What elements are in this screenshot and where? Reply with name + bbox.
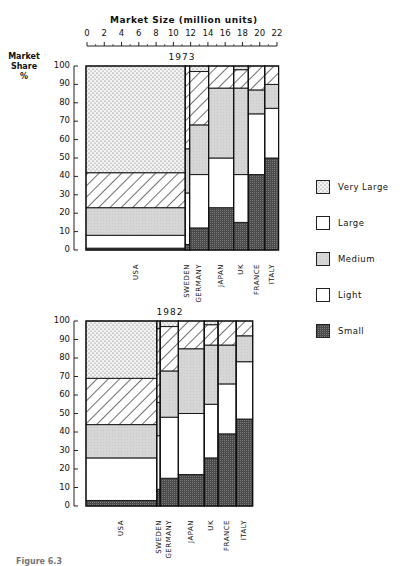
bar-segment-large xyxy=(86,378,157,424)
bar-segment-large xyxy=(185,66,189,149)
legend-label: Medium xyxy=(338,254,375,264)
bar-segment-small xyxy=(248,175,264,250)
y-tick-label: 0 xyxy=(44,244,70,254)
legend-item-large: Large xyxy=(316,216,389,230)
category-label: ITALY xyxy=(268,264,276,284)
y-tick-label: 30 xyxy=(44,445,70,455)
bar-segment-medium xyxy=(209,88,234,158)
x-tick-label: 18 xyxy=(237,28,248,38)
y-tick-label: 0 xyxy=(44,500,70,510)
bar-segment-medium xyxy=(248,90,264,114)
bar-segment-medium xyxy=(160,371,178,417)
chart-title-1973: 1973 xyxy=(169,52,196,62)
category-label: USA xyxy=(132,264,140,280)
y-tick-label: 30 xyxy=(44,189,70,199)
legend-item-light: Light xyxy=(316,288,389,302)
y-tick-label: 20 xyxy=(44,207,70,217)
category-label: ITALY xyxy=(240,520,248,540)
bar-segment-small xyxy=(86,500,157,506)
large-swatch-icon xyxy=(316,216,330,230)
y-tick-label: 50 xyxy=(44,152,70,162)
y-tick-label: 90 xyxy=(44,334,70,344)
y-axis-title-line3: % xyxy=(4,72,44,82)
bar-segment-very-large xyxy=(160,321,178,327)
x-tick-label: 12 xyxy=(185,28,196,38)
small-swatch-icon xyxy=(316,324,330,338)
bar-segment-medium xyxy=(218,345,236,384)
x-tick-label: 2 xyxy=(102,28,107,38)
bar-segment-small xyxy=(190,228,209,250)
category-label: UK xyxy=(207,520,215,531)
x-tick-label: 4 xyxy=(119,28,124,38)
bar-segment-small xyxy=(185,244,189,250)
bar-segment-large xyxy=(204,325,218,345)
bar-segment-light xyxy=(86,235,185,248)
bar-segment-medium xyxy=(265,84,279,108)
y-axis-title-line2: Share xyxy=(4,62,44,72)
y-tick-label: 90 xyxy=(44,78,70,88)
bar-segment-light xyxy=(185,193,189,245)
x-tick-label: 20 xyxy=(254,28,265,38)
bar-segment-large xyxy=(218,321,236,345)
x-tick-label: 22 xyxy=(272,28,283,38)
y-tick-label: 20 xyxy=(44,463,70,473)
bar-segment-large xyxy=(234,70,249,88)
bar-segment-small xyxy=(234,222,249,250)
bar-segment-light xyxy=(218,384,236,434)
category-label: JAPAN xyxy=(217,264,225,287)
bar-segment-small xyxy=(236,419,252,506)
legend-item-very-large: Very Large xyxy=(316,180,389,194)
bar-segment-small xyxy=(209,208,234,250)
y-tick-label: 40 xyxy=(44,170,70,180)
bar-segment-large xyxy=(265,66,279,84)
chart-1973 xyxy=(74,66,279,250)
bar-segment-small xyxy=(178,475,204,506)
bar-segment-light xyxy=(204,404,218,458)
bar-segment-large xyxy=(209,66,234,88)
category-label: UK xyxy=(237,264,245,275)
y-tick-label: 10 xyxy=(44,482,70,492)
bar-segment-light xyxy=(86,458,157,501)
bar-segment-light xyxy=(178,414,204,475)
y-axis-title: Market Share % xyxy=(4,52,44,82)
y-tick-label: 70 xyxy=(44,115,70,125)
legend-label: Large xyxy=(338,218,364,228)
bar-segment-medium xyxy=(204,345,218,404)
bar-segment-light xyxy=(265,108,279,158)
x-tick-label: 14 xyxy=(202,28,213,38)
bar-segment-large xyxy=(236,321,252,336)
bar-segment-small xyxy=(265,158,279,250)
light-swatch-icon xyxy=(316,288,330,302)
figure-caption: Figure 6.3 xyxy=(16,557,62,566)
category-label: SWEDEN xyxy=(155,520,163,554)
bar-segment-medium xyxy=(178,349,204,414)
legend-item-small: Small xyxy=(316,324,389,338)
y-tick-label: 10 xyxy=(44,226,70,236)
bar-segment-small xyxy=(218,434,236,506)
bar-segment-large xyxy=(160,327,178,371)
bar-segment-light xyxy=(160,417,178,478)
x-tick-label: 0 xyxy=(84,28,89,38)
bar-segment-very-large xyxy=(190,66,209,72)
bar-segment-medium xyxy=(86,208,185,236)
y-tick-label: 100 xyxy=(44,315,70,325)
bar-segment-small xyxy=(160,478,178,506)
bar-segment-medium xyxy=(185,149,189,193)
category-label: USA xyxy=(117,520,125,536)
category-label: FRANCE xyxy=(253,264,261,295)
bar-segment-light xyxy=(236,362,252,419)
bar-segment-large xyxy=(86,173,185,208)
bar-segment-very-large xyxy=(86,321,157,378)
bar-segment-medium xyxy=(234,88,249,174)
legend-label: Light xyxy=(338,290,362,300)
x-tick-label: 8 xyxy=(153,28,158,38)
chart-title-1982: 1982 xyxy=(157,307,184,317)
category-label: SWEDEN xyxy=(183,264,191,298)
bar-segment-medium xyxy=(86,425,157,458)
category-label: FRANCE xyxy=(223,520,231,551)
bar-segment-light xyxy=(234,175,249,223)
legend-item-medium: Medium xyxy=(316,252,389,266)
y-tick-label: 80 xyxy=(44,97,70,107)
bar-segment-light xyxy=(248,114,264,175)
y-tick-label: 80 xyxy=(44,352,70,362)
